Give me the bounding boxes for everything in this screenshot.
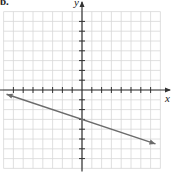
x-axis-label: x [165, 92, 170, 104]
y-axis-label: y [74, 0, 79, 8]
coordinate-plane [0, 0, 172, 175]
line-arrow-right-icon [149, 140, 156, 145]
y-axis-arrow-icon [80, 1, 85, 7]
axes [0, 1, 171, 171]
line-arrow-left-icon [7, 94, 14, 99]
part-label: b. [0, 0, 9, 7]
